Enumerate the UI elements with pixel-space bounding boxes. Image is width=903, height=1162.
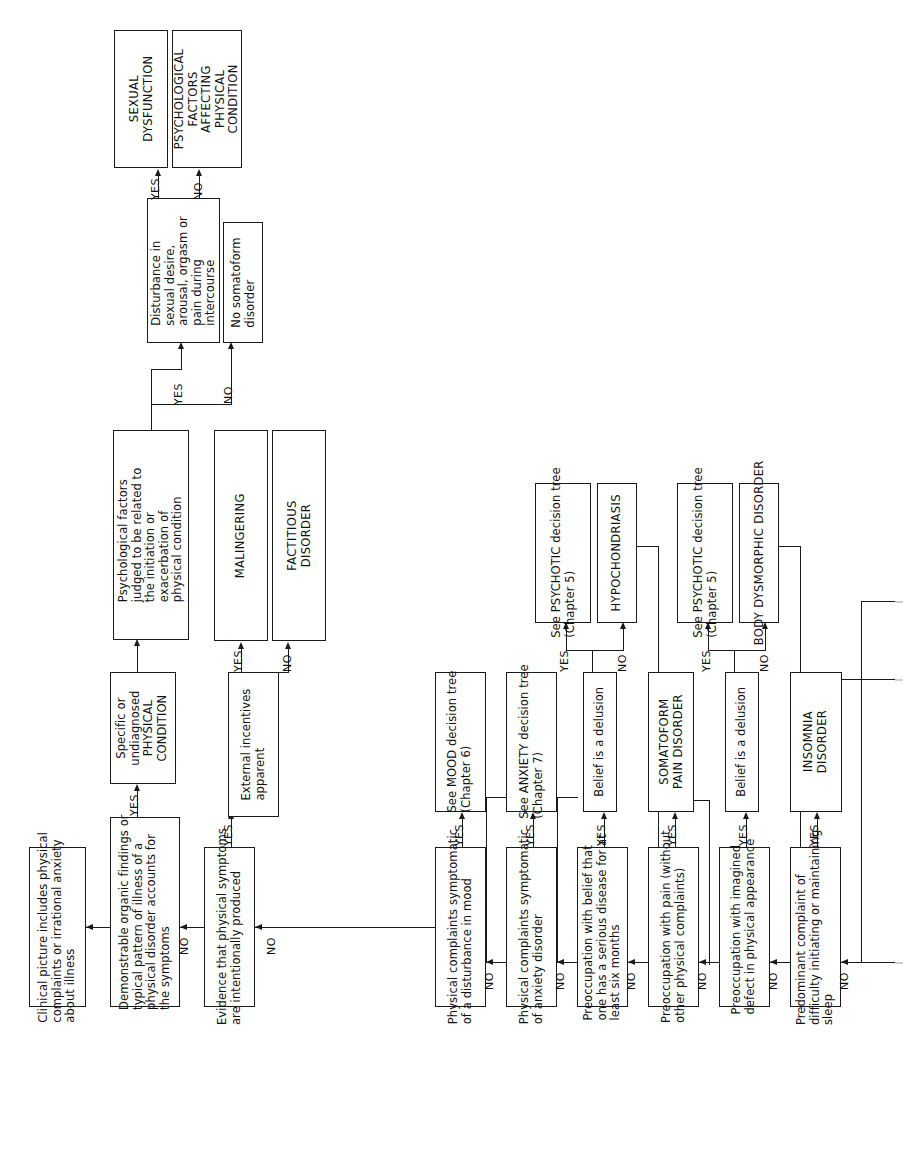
node-start-label: Clinical picture includes physical compl… — [37, 832, 78, 1023]
arrowhead-external-no — [285, 642, 291, 649]
node-sexual-disturbance: Disturbance in sexual desire, arousal, o… — [147, 198, 220, 343]
edge-psych-fork-to-sexdist — [181, 348, 182, 370]
node-no-somatoform-disorder-label: No somatoform disorder — [229, 237, 256, 327]
node-serious-disease-label: Preoccupation with belief that one has a… — [582, 834, 623, 1020]
edge-mood-no-top — [486, 797, 507, 798]
node-external-incentives: External incentives apparent — [228, 672, 279, 817]
node-psychotic-tree-1: See PSYCHOTIC decision tree (Chapter 5) — [535, 483, 591, 623]
edge-label-insomnia-yes: YES — [808, 824, 821, 846]
edge-psych-fork-left-top — [151, 369, 182, 370]
edge-anxiety-no-top — [557, 797, 578, 798]
edge-label-psych-yes: YES — [172, 383, 185, 405]
edge-label-external-no: NO — [281, 654, 294, 672]
edge-label-delusion2-no: NO — [758, 654, 771, 672]
node-organic-findings: Demonstrable organic findings or typical… — [110, 817, 180, 1007]
node-body-dysmorphic-disorder: BODY DYSMORPHIC DISORDER — [739, 483, 779, 623]
node-appearance-preoccupation: Preoccupation with imagined defect in ph… — [719, 847, 770, 1007]
edge-label-pain-no: NO — [696, 972, 709, 990]
scan-artifact-2 — [895, 679, 903, 681]
node-insomnia-complaint-label: Predominant complaint of difficulty init… — [795, 829, 836, 1025]
edge-label-appearance-no: NO — [767, 972, 780, 990]
node-specific-physical-condition-label: Specific or undiagnosed PHYSICAL CONDITI… — [116, 690, 170, 765]
arrowhead-serious-yes — [601, 812, 607, 819]
arrowhead-physcond-psychfactors — [134, 639, 140, 646]
arrowhead-organic-no — [180, 924, 187, 930]
edge-label-intentional-yes: YES — [222, 824, 235, 846]
node-intentionally-produced-label: Evidence that physical symptoms are inte… — [216, 829, 243, 1026]
edge-label-insomnia-no: NO — [838, 972, 851, 990]
edge-delusion2-stem — [734, 650, 735, 673]
edge-label-delusion2-yes: YES — [700, 650, 713, 672]
node-mood-symptomatic-label: Physical complaints symptomatic of a dis… — [447, 829, 474, 1024]
edge-label-organic-no: NO — [178, 937, 191, 955]
arrowhead-appearance-no — [770, 959, 777, 965]
arrowhead-pain-no — [699, 959, 706, 965]
node-psychotic-tree-1-label: See PSYCHOTIC decision tree (Chapter 5) — [549, 468, 576, 638]
arrowhead-external-yes — [238, 642, 244, 649]
edge-somatoform-pain-out-drop — [709, 800, 710, 965]
node-belief-delusion-1: Belief is a delusion — [583, 672, 617, 812]
node-intentionally-produced: Evidence that physical symptoms are inte… — [204, 847, 255, 1007]
edge-label-anxiety-yes: YES — [524, 824, 537, 846]
node-anxiety-tree-label: See ANXIETY decision tree (Chapter 7) — [518, 665, 545, 820]
arrowhead-insomnia-yes — [814, 812, 820, 819]
edge-label-mood-yes: YES — [453, 824, 466, 846]
node-psychotic-tree-2-label: See PSYCHOTIC decision tree (Chapter 5) — [691, 468, 718, 638]
edge-psych-fork-left-riser — [151, 369, 152, 405]
node-appearance-preoccupation-label: Preoccupation with imagined defect in ph… — [731, 839, 758, 1015]
edge-delusion2-bar — [708, 650, 766, 651]
node-start: Clinical picture includes physical compl… — [29, 847, 86, 1007]
node-somatoform-pain-disorder: SOMATOFORM PAIN DISORDER — [648, 672, 694, 812]
arrowhead-intentional-no — [255, 924, 262, 930]
arrowhead-sexdist-no — [196, 169, 202, 176]
edge-label-sexdist-yes: YES — [149, 178, 162, 200]
edge-insomnia-disorder-continue — [842, 679, 903, 680]
edge-hypochondriasis-out — [637, 546, 659, 547]
edge-physcond-psychfactors — [137, 645, 138, 672]
edge-label-appearance-yes: YES — [737, 824, 750, 846]
node-pain-preoccupation-label: Preoccupation with pain (without other p… — [660, 831, 687, 1024]
arrowhead-organic-yes — [134, 784, 140, 791]
node-body-dysmorphic-disorder-label: BODY DYSMORPHIC DISORDER — [752, 461, 766, 646]
node-malingering: MALINGERING — [214, 430, 268, 641]
node-psych-factors-affecting-label: PSYCHOLOGICAL FACTORS AFFECTING PHYSICAL… — [173, 49, 241, 150]
arrowhead-appearance-yes — [743, 812, 749, 819]
arrowhead-psych-to-sexdist — [178, 342, 184, 349]
node-no-somatoform-disorder: No somatoform disorder — [223, 222, 263, 343]
edge-mood-no-riser — [486, 797, 487, 963]
scan-artifact-3 — [895, 962, 903, 964]
node-belief-delusion-1-label: Belief is a delusion — [593, 687, 607, 797]
node-sexual-dysfunction-label: SEXUAL DYSFUNCTION — [127, 56, 154, 142]
node-anxiety-tree: See ANXIETY decision tree (Chapter 7) — [506, 672, 557, 812]
edge-insomnia-continue-riser — [861, 601, 862, 963]
edge-delusion1-bar — [566, 650, 624, 651]
arrowhead-pain-yes — [672, 812, 678, 819]
node-hypochondriasis-label: HYPOCHONDRIASIS — [610, 494, 624, 611]
edge-label-delusion1-no: NO — [616, 654, 629, 672]
edge-delusion1-stem — [592, 650, 593, 673]
edge-psych-fork-bar — [151, 404, 232, 405]
edge-label-anxiety-no: NO — [554, 972, 567, 990]
node-insomnia-disorder: INSOMNIA DISORDER — [790, 672, 842, 812]
node-psych-factors-related: Psychological factors judged to be relat… — [113, 430, 189, 640]
arrowhead-sexdist-yes — [155, 169, 161, 176]
node-serious-disease: Preoccupation with belief that one has a… — [577, 847, 628, 1007]
node-sexual-dysfunction: SEXUAL DYSFUNCTION — [114, 30, 168, 168]
edge-label-serious-no: NO — [625, 972, 638, 990]
edge-intentional-no — [255, 927, 435, 928]
node-mood-tree-label: See MOOD decision tree (Chapter 6) — [447, 671, 474, 813]
edge-label-organic-yes: YES — [128, 794, 141, 816]
edge-external-fork-bar — [241, 672, 289, 673]
node-belief-delusion-2-label: Belief is a delusion — [735, 687, 749, 797]
arrowhead-psych-to-nosomato — [228, 342, 234, 349]
arrowhead-insomnia-no — [841, 959, 848, 965]
node-factitious-disorder: FACTITIOUS DISORDER — [272, 430, 326, 641]
node-sexual-disturbance-label: Disturbance in sexual desire, arousal, o… — [150, 216, 218, 326]
node-organic-findings-label: Demonstrable organic findings or typical… — [118, 814, 172, 1010]
edge-delusion1-no-riser — [623, 628, 624, 651]
node-psych-factors-affecting: PSYCHOLOGICAL FACTORS AFFECTING PHYSICAL… — [172, 30, 242, 168]
edge-bodydysmorphic-out — [779, 546, 801, 547]
node-malingering-label: MALINGERING — [234, 493, 248, 578]
edge-label-mood-no: NO — [483, 972, 496, 990]
edge-label-pain-yes: YES — [666, 824, 679, 846]
